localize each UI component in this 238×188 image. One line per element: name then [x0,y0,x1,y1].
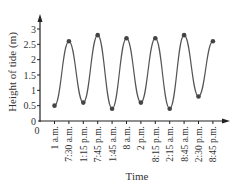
y-ticks: 0.511.522.530 [24,24,41,127]
x-tick-label: 8:45 a.m. [180,126,190,162]
data-point-marker [67,39,72,44]
data-point-marker [167,106,172,111]
x-tick-label: 7:30 a.m. [64,126,74,162]
y-tick-label: 3 [31,24,36,35]
x-ticks: 1 a.m.7:30 a.m.1:15 p.m.7:45 p.m.1:45 a.… [50,121,218,162]
tide-curve [55,35,213,109]
y-axis-label: Height of tide (m) [6,32,19,112]
x-tick-label: 1:15 p.m. [79,126,89,162]
data-point-marker [52,103,57,108]
data-point-marker [81,100,86,105]
data-point-marker [182,33,187,38]
data-point-marker [110,106,115,111]
x-tick-label: 2:30 p.m. [194,126,204,162]
x-tick-label: 2 p.m. [136,126,146,150]
data-point-marker [139,100,144,105]
chart-canvas: 0.511.522.530 1 a.m.7:30 a.m.1:15 p.m.7:… [0,0,238,188]
x-tick-label: 1:45 a.m. [108,126,118,162]
data-point-marker [196,94,201,99]
data-point-marker [211,39,216,44]
y-tick-label: 2.5 [24,39,37,50]
x-axis-label: Time [126,170,149,182]
y-tick-label: 2 [31,54,36,65]
data-point-marker [124,36,129,41]
y-tick-label: 1.5 [24,70,37,81]
origin-label: 0 [35,125,40,136]
y-tick-label: 1 [31,85,36,96]
y-axis-arrow-icon [38,14,43,22]
tide-height-chart: 0.511.522.530 1 a.m.7:30 a.m.1:15 p.m.7:… [0,0,238,188]
x-tick-label: 8:15 p.m. [151,126,161,162]
data-point-marker [153,36,158,41]
x-tick-label: 7:45 p.m. [93,126,103,162]
x-tick-label: 8:45 p.m. [208,126,218,162]
x-tick-label: 8 a.m. [122,126,132,149]
x-axis-arrow-icon [222,119,230,124]
data-point-marker [95,33,100,38]
x-tick-label: 2:15 a.m. [165,126,175,162]
y-tick-label: 0.5 [24,100,37,111]
x-tick-label: 1 a.m. [50,126,60,149]
